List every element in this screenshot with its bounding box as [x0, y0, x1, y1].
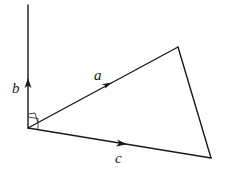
label-b: b — [12, 80, 20, 96]
vector-a: a — [28, 47, 178, 128]
vector-b: b — [12, 5, 32, 128]
label-a: a — [94, 67, 102, 83]
vector-c: c — [28, 128, 211, 166]
label-c: c — [115, 150, 122, 166]
vector-diagram: b a c — [0, 0, 232, 173]
triangle-edge — [178, 47, 211, 158]
